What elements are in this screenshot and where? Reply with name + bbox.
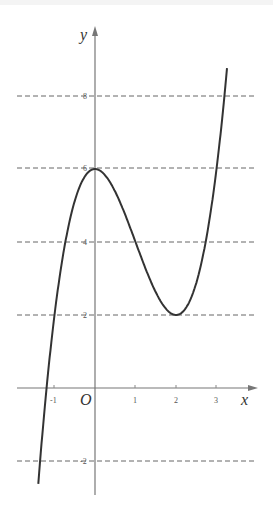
function-curve — [38, 68, 227, 484]
y-axis-arrow-icon — [92, 26, 98, 36]
y-tick-label: -2 — [80, 457, 87, 466]
x-tick-label: 3 — [214, 396, 218, 405]
x-tick-label: -1 — [50, 396, 57, 405]
x-axis-label: x — [240, 391, 248, 408]
y-tick-label: 4 — [83, 238, 87, 247]
x-tick-label: 2 — [174, 396, 178, 405]
y-tick-label: 8 — [83, 92, 87, 101]
origin-label: O — [80, 391, 92, 408]
y-tick-label: 6 — [83, 164, 87, 173]
y-tick-label: 2 — [83, 311, 87, 320]
function-graph: -1 1 2 3 8 6 4 2 -2 y x O — [0, 0, 273, 508]
x-tick-label: 1 — [133, 396, 137, 405]
chart-container: -1 1 2 3 8 6 4 2 -2 y x O — [0, 0, 273, 508]
y-axis-label: y — [78, 26, 88, 44]
x-axis-arrow-icon — [248, 385, 258, 391]
